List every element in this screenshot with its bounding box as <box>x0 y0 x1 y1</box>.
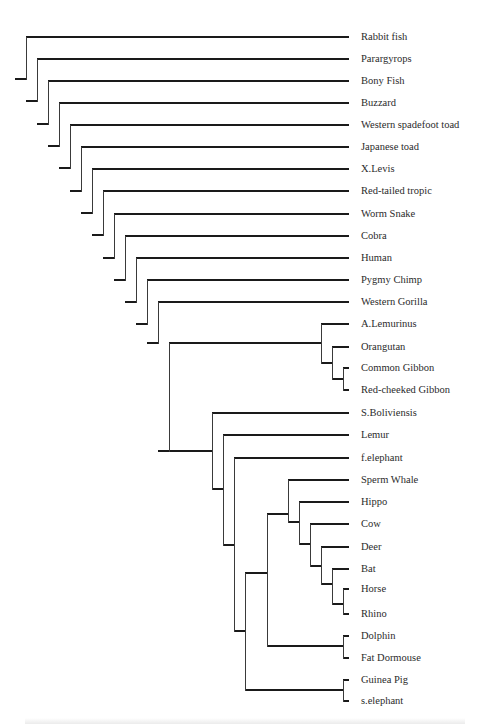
branch-vertical <box>136 258 137 303</box>
branch-vertical <box>26 37 27 80</box>
branch-horizontal <box>70 190 81 192</box>
leaf-label: Red-tailed tropic <box>361 185 432 197</box>
leaf-label: s.elephant <box>361 695 403 707</box>
branch-horizontal <box>321 362 332 364</box>
branch-horizontal <box>288 521 299 523</box>
branch-horizontal <box>81 146 349 148</box>
branch-horizontal <box>136 257 349 259</box>
leaf-label: Buzzard <box>361 97 396 109</box>
branch-vertical <box>81 147 82 192</box>
leaf-label: Human <box>361 252 392 264</box>
figure-caption-cutoff <box>25 718 465 724</box>
branch-vertical <box>48 81 49 125</box>
branch-vertical <box>103 191 104 236</box>
leaf-label: X.Levis <box>361 163 395 175</box>
leaf-label: Worm Snake <box>361 208 415 220</box>
branch-horizontal <box>147 279 349 281</box>
branch-vertical <box>125 236 126 281</box>
branch-horizontal <box>321 583 332 585</box>
branch-horizontal <box>169 450 212 452</box>
leaf-label: Guinea Pig <box>361 674 408 686</box>
branch-vertical <box>310 524 311 567</box>
branch-horizontal <box>136 323 147 325</box>
branch-vertical <box>147 280 148 325</box>
branch-horizontal <box>212 412 349 414</box>
branch-horizontal <box>169 342 321 344</box>
branch-horizontal <box>158 301 349 303</box>
branch-horizontal <box>48 80 349 82</box>
branch-horizontal <box>92 234 103 236</box>
branch-horizontal <box>147 342 158 344</box>
leaf-label: Horse <box>361 583 386 595</box>
branch-horizontal <box>310 523 349 525</box>
branch-horizontal <box>37 123 48 125</box>
branch-horizontal <box>125 235 349 237</box>
branch-vertical <box>343 368 344 391</box>
branch-horizontal <box>59 102 349 104</box>
branch-horizontal <box>103 190 349 192</box>
branch-vertical <box>114 214 115 259</box>
branch-vertical <box>92 169 93 214</box>
branch-horizontal <box>114 213 349 215</box>
branch-vertical <box>245 573 246 691</box>
branch-horizontal <box>15 78 26 80</box>
leaf-label: Parargyrops <box>361 53 412 65</box>
leaf-label: Hippo <box>361 496 387 508</box>
branch-vertical <box>332 347 333 380</box>
leaf-label: Western spadefoot toad <box>361 119 459 131</box>
branch-vertical <box>37 59 38 102</box>
leaf-label: f.elephant <box>361 452 403 464</box>
branch-horizontal <box>245 572 267 574</box>
leaf-label: Bat <box>361 563 376 575</box>
branch-horizontal <box>332 568 349 570</box>
leaf-label: Common Gibbon <box>361 362 434 374</box>
branch-horizontal <box>70 124 349 126</box>
leaf-label: Orangutan <box>361 341 405 353</box>
leaf-label: Bony Fish <box>361 75 404 87</box>
leaf-label: A.Lemurinus <box>361 318 417 330</box>
branch-horizontal <box>125 301 136 303</box>
branch-vertical <box>234 458 235 632</box>
leaf-label: Deer <box>361 541 381 553</box>
branch-horizontal <box>332 603 343 605</box>
branch-vertical <box>299 502 300 545</box>
branch-vertical <box>321 547 322 585</box>
branch-vertical <box>169 343 170 452</box>
branch-vertical <box>343 636 344 659</box>
leaf-label: Western Gorilla <box>361 296 428 308</box>
branch-horizontal <box>92 168 349 170</box>
branch-vertical <box>321 324 322 364</box>
branch-vertical <box>267 514 268 647</box>
branch-horizontal <box>321 323 349 325</box>
leaf-label: Japanese toad <box>361 141 419 153</box>
branch-horizontal <box>299 501 349 503</box>
branch-vertical <box>343 680 344 702</box>
branch-horizontal <box>288 479 349 481</box>
branch-horizontal <box>48 145 59 147</box>
branch-horizontal <box>212 488 223 490</box>
branch-horizontal <box>321 546 349 548</box>
branch-horizontal <box>299 543 310 545</box>
branch-horizontal <box>245 689 343 691</box>
leaf-label: Rhino <box>361 608 387 620</box>
leaf-label: Lemur <box>361 429 389 441</box>
branch-vertical <box>288 480 289 523</box>
leaf-label: S.Boliviensis <box>361 407 417 419</box>
leaf-label: Dolphin <box>361 630 395 642</box>
leaf-label: Sperm Whale <box>361 474 418 486</box>
branch-horizontal <box>81 212 92 214</box>
branch-vertical <box>343 589 344 615</box>
branch-vertical <box>332 569 333 605</box>
branch-horizontal <box>158 450 169 452</box>
branch-horizontal <box>37 58 349 60</box>
branch-vertical <box>59 103 60 147</box>
leaf-label: Pygmy Chimp <box>361 274 422 286</box>
branch-horizontal <box>332 378 343 380</box>
branch-vertical <box>158 302 159 344</box>
branch-horizontal <box>26 36 349 38</box>
leaf-label: Fat Dormouse <box>361 652 421 664</box>
branch-horizontal <box>310 565 321 567</box>
branch-vertical <box>223 435 224 546</box>
leaf-label: Cow <box>361 518 381 530</box>
branch-horizontal <box>59 167 70 169</box>
